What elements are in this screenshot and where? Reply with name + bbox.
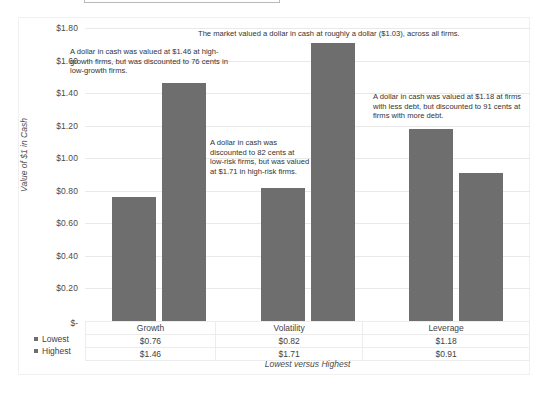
chart-legend: LowestHighest xyxy=(34,333,86,357)
annotation-growth: A dollar in cash was valued at $1.46 at … xyxy=(70,47,235,76)
gridline xyxy=(85,126,530,127)
x-axis-title: Lowest versus Highest xyxy=(85,359,530,369)
data-table: GrowthVolatilityLeverage$0.76$0.82$1.18$… xyxy=(85,321,530,361)
bar-leverage-lowest[interactable] xyxy=(409,129,453,321)
table-header-volatility: Volatility xyxy=(215,322,362,335)
y-axis-tick-label: $1.80 xyxy=(18,23,78,33)
legend-item-lowest[interactable]: Lowest xyxy=(34,333,86,345)
legend-item-label: Lowest xyxy=(42,333,69,345)
y-axis-tick-label: $0.40 xyxy=(18,251,78,261)
bar-leverage-highest[interactable] xyxy=(459,173,503,321)
clipped-top-box xyxy=(84,0,280,3)
table-header-growth: Growth xyxy=(86,322,216,335)
y-axis-title: Value of $1 in Cash xyxy=(19,85,29,225)
bar-growth-lowest[interactable] xyxy=(112,197,156,321)
legend-swatch-icon xyxy=(34,349,38,353)
annotation-leverage: A dollar in cash was valued at $1.18 at … xyxy=(373,92,533,121)
annotation-overall: The market valued a dollar in cash at ro… xyxy=(198,29,498,39)
legend-item-highest[interactable]: Highest xyxy=(34,345,86,357)
y-axis-tick-label: $1.60 xyxy=(18,56,78,66)
table-header-leverage: Leverage xyxy=(363,322,530,335)
legend-item-label: Highest xyxy=(42,345,71,357)
bar-volatility-lowest[interactable] xyxy=(261,188,305,321)
table-cell: $1.18 xyxy=(363,335,530,348)
bar-growth-highest[interactable] xyxy=(162,83,206,321)
y-axis-zero-label: $- xyxy=(18,318,78,328)
table-cell: $0.82 xyxy=(215,335,362,348)
y-axis-tick-label: $0.20 xyxy=(18,283,78,293)
annotation-volatility: A dollar in cash was discounted to 82 ce… xyxy=(210,138,310,176)
table-row: GrowthVolatilityLeverage xyxy=(86,322,530,335)
table-cell: $0.76 xyxy=(86,335,216,348)
bar-volatility-highest[interactable] xyxy=(311,43,355,321)
table-row: $0.76$0.82$1.18 xyxy=(86,335,530,348)
legend-swatch-icon xyxy=(34,337,38,341)
